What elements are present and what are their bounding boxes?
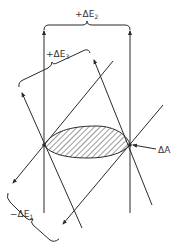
left-node — [42, 143, 46, 147]
vector-diagram: +ΔE2 +ΔE3 −ΔE1 ΔA — [0, 0, 181, 242]
right-node — [128, 143, 132, 147]
label-delta-a: ΔA — [158, 145, 171, 155]
label-delta-e1: −ΔE1 — [10, 209, 33, 220]
left-diagonal-vector — [13, 61, 113, 183]
brace-delta-e2 — [44, 21, 130, 30]
label-delta-e3: +ΔE3 — [46, 49, 69, 60]
delta-a-leader — [133, 145, 156, 149]
right-diagonal-vector — [63, 105, 163, 224]
label-delta-e2: +ΔE2 — [75, 9, 98, 20]
